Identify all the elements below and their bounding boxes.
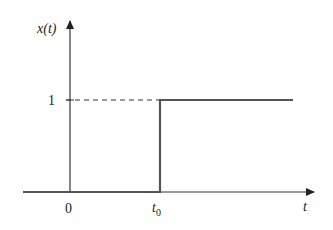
step-signal [23, 100, 293, 192]
step-function-diagram: x(t) 1 0 t0 t [0, 0, 333, 230]
x-tick-t0-label: t0 [152, 200, 161, 218]
x-tick-origin-label: 0 [65, 201, 72, 216]
y-tick-label: 1 [48, 93, 55, 108]
x-axis-label: t [303, 199, 308, 214]
y-axis-label: x(t) [36, 21, 57, 37]
